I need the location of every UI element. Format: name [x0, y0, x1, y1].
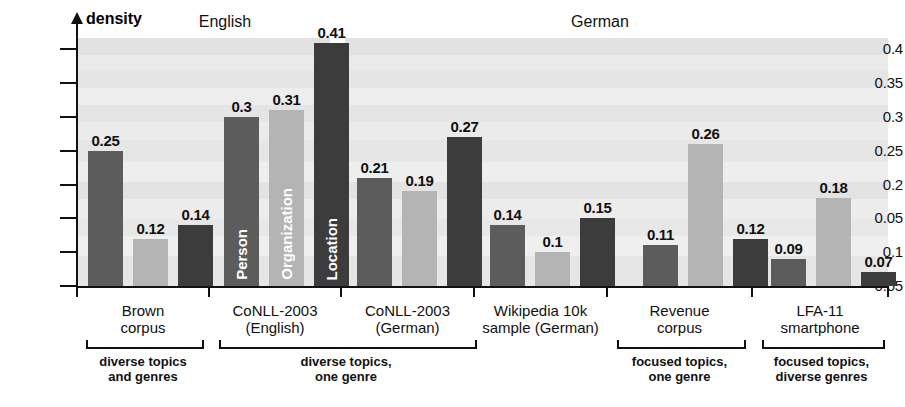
- group-label-line1: Revenue: [607, 302, 752, 319]
- bar-organization: [535, 252, 570, 286]
- group-bracket: [617, 340, 746, 349]
- bar-location: [861, 272, 896, 286]
- background-band: [345, 38, 888, 55]
- x-axis-group-label: Browncorpus: [77, 302, 209, 336]
- bracket-label-line1: focused topics,: [595, 354, 764, 369]
- y-axis-tick-mark: [60, 251, 76, 253]
- bar-value-label: 0.27: [438, 118, 491, 135]
- bar-value-label: 0.41: [305, 24, 358, 41]
- bracket-label-line2: diverse genres: [740, 369, 903, 384]
- background-band: [345, 105, 888, 122]
- y-axis-title: density: [86, 10, 142, 28]
- bracket-label-line2: one genre: [595, 369, 764, 384]
- group-label-line1: Brown: [77, 302, 209, 319]
- background-band: [77, 70, 330, 87]
- x-axis-group-separator: [606, 286, 608, 297]
- bar-location: [580, 218, 615, 286]
- background-band: [77, 55, 330, 70]
- bar-value-label: 0.07: [852, 253, 905, 270]
- x-axis-group-label: CoNLL-2003(English): [209, 302, 341, 336]
- x-axis-group-separator: [887, 286, 889, 297]
- background-band: [345, 55, 888, 70]
- group-label-line2: smartphone: [752, 319, 888, 336]
- bar-series-name-location: Location: [323, 218, 340, 281]
- group-label-line1: LFA-11: [752, 302, 888, 319]
- y-axis-tick-mark: [60, 150, 76, 152]
- group-bracket-label: diverse topics,one genre: [197, 354, 495, 384]
- background-band: [345, 88, 888, 105]
- bar-value-label: 0.25: [79, 132, 132, 149]
- bar-person: [643, 245, 678, 286]
- group-label-line1: CoNLL-2003: [209, 302, 341, 319]
- bar-location: [178, 225, 213, 286]
- bar-value-label: 0.12: [724, 220, 777, 237]
- group-label-line1: CoNLL-2003: [341, 302, 474, 319]
- group-bracket-label: focused topics,diverse genres: [740, 354, 903, 384]
- y-axis-tick-label: 0.4: [847, 41, 903, 56]
- y-axis-tick-mark: [60, 82, 76, 84]
- bar-location: [447, 137, 482, 286]
- bar-value-label: 0.15: [571, 199, 624, 216]
- x-axis-group-separator: [340, 286, 342, 297]
- y-axis-tick-label: 0.25: [847, 143, 903, 158]
- bracket-label-line2: one genre: [197, 369, 495, 384]
- bar-value-label: 0.1: [526, 233, 579, 250]
- x-axis-group-separator: [751, 286, 753, 297]
- bar-organization: [133, 239, 168, 286]
- x-axis-group-separator: [473, 286, 475, 297]
- y-axis-tick-mark: [60, 184, 76, 186]
- group-label-line2: sample (German): [474, 319, 607, 336]
- group-bracket: [762, 340, 885, 349]
- bar-organization: [688, 144, 723, 286]
- bar-series-name-person: Person: [233, 229, 250, 280]
- bar-person: [88, 151, 123, 286]
- group-bracket-label: focused topics,one genre: [595, 354, 764, 384]
- y-axis-tick-label: 0.05: [847, 210, 903, 225]
- bar-value-label: 0.31: [260, 91, 313, 108]
- x-axis-group-separator: [208, 286, 210, 297]
- bar-person: [771, 259, 806, 286]
- bar-organization: [816, 198, 851, 286]
- y-axis-line: [76, 22, 78, 288]
- y-axis-tick-label: 0.3: [847, 109, 903, 124]
- group-label-line2: corpus: [607, 319, 752, 336]
- y-axis-tick-mark: [60, 285, 76, 287]
- group-label-line2: (English): [209, 319, 341, 336]
- bar-organization: [402, 191, 437, 286]
- x-axis-line: [77, 286, 888, 288]
- group-bracket: [86, 340, 204, 349]
- background-band: [77, 38, 330, 55]
- bracket-label-line1: diverse topics,: [197, 354, 495, 369]
- background-band: [345, 70, 888, 87]
- bar-value-label: 0.19: [393, 172, 446, 189]
- x-axis-group-label: Wikipedia 10ksample (German): [474, 302, 607, 336]
- language-label-german: German: [525, 13, 675, 31]
- x-axis-group-label: Revenuecorpus: [607, 302, 752, 336]
- y-axis-tick-label: 0.35: [847, 75, 903, 90]
- x-axis-group-label: LFA-11smartphone: [752, 302, 888, 336]
- bar-series-name-organization: Organization: [278, 188, 295, 280]
- language-label-english: English: [150, 13, 300, 31]
- bar-value-label: 0.18: [807, 179, 860, 196]
- background-band: [345, 122, 888, 139]
- y-axis-tick-mark: [60, 217, 76, 219]
- bar-value-label: 0.09: [762, 240, 815, 257]
- group-bracket: [219, 340, 477, 349]
- bar-person: [490, 225, 525, 286]
- group-label-line1: Wikipedia 10k: [474, 302, 607, 319]
- bar-value-label: 0.14: [481, 206, 534, 223]
- group-label-line2: (German): [341, 319, 474, 336]
- x-axis-group-label: CoNLL-2003(German): [341, 302, 474, 336]
- x-axis-group-separator: [76, 286, 78, 297]
- bar-person: [357, 178, 392, 286]
- bracket-label-line1: focused topics,: [740, 354, 903, 369]
- bar-value-label: 0.26: [679, 125, 732, 142]
- background-band: [345, 140, 888, 162]
- y-axis-tick-mark: [60, 48, 76, 50]
- y-axis-tick-mark: [60, 116, 76, 118]
- group-label-line2: corpus: [77, 319, 209, 336]
- bar-value-label: 0.14: [169, 206, 222, 223]
- bar-value-label: 0.11: [634, 226, 687, 243]
